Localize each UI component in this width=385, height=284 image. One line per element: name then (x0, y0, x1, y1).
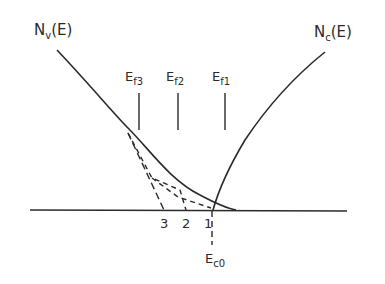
intercept-1-label: 1 (204, 217, 212, 230)
valence-dos-label: Nv(E) (34, 23, 72, 41)
label-main: E (166, 69, 174, 84)
intercept-3-label: 3 (160, 217, 168, 230)
label-sub: f2 (174, 76, 184, 87)
fermi-level-2-label: Ef2 (166, 70, 184, 87)
tail-line-3b (128, 133, 186, 210)
fermi-level-1-label: Ef1 (212, 70, 230, 87)
label-sub: f1 (220, 76, 230, 87)
fermi-level-3-label: Ef3 (125, 70, 143, 87)
label-main: N (314, 23, 325, 41)
band-edge-label: Ec0 (205, 252, 225, 269)
label-tail: (E) (51, 21, 72, 39)
label-sub: c0 (213, 258, 225, 269)
label-main: E (205, 251, 213, 266)
valence-dos-curve (57, 50, 236, 210)
label-main: N (34, 21, 45, 39)
label-main: E (125, 69, 133, 84)
label-main: E (212, 69, 220, 84)
energy-axis (30, 210, 347, 211)
label-sub: f3 (133, 76, 143, 87)
conduction-dos-label: Nc(E) (314, 25, 352, 43)
label-tail: (E) (331, 23, 352, 41)
intercept-2-label: 2 (182, 217, 190, 230)
